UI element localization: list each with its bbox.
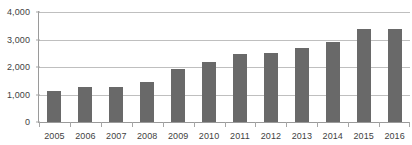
x-tick-cell bbox=[255, 122, 286, 127]
x-tick-cell bbox=[317, 122, 348, 127]
y-axis-tick-mark bbox=[36, 12, 40, 13]
x-axis-tick-mark bbox=[39, 122, 40, 127]
x-axis-ticks bbox=[39, 122, 410, 127]
bar-slot bbox=[317, 12, 348, 122]
bar-slot bbox=[286, 12, 317, 122]
bar-slot bbox=[348, 12, 379, 122]
x-tick-cell bbox=[70, 122, 101, 127]
x-axis-tick-mark bbox=[225, 122, 226, 127]
x-tick-cell bbox=[101, 122, 132, 127]
x-tick-cell bbox=[163, 122, 194, 127]
bar[interactable] bbox=[47, 91, 61, 122]
bar-slot bbox=[163, 12, 194, 122]
y-axis-tick-label: 4,000 bbox=[7, 7, 30, 17]
bar[interactable] bbox=[140, 82, 154, 122]
y-axis-tick-mark bbox=[36, 122, 40, 123]
y-axis-tick-label: 2,000 bbox=[7, 62, 30, 72]
x-tick-mark-end bbox=[409, 122, 410, 127]
bar[interactable] bbox=[202, 62, 216, 122]
x-axis-tick-label: 2008 bbox=[132, 129, 163, 145]
x-axis-tick-label: 2012 bbox=[255, 129, 286, 145]
x-axis-tick-label: 2007 bbox=[101, 129, 132, 145]
x-axis-tick-label: 2013 bbox=[286, 129, 317, 145]
bar[interactable] bbox=[295, 48, 309, 122]
y-axis-tick-label: 3,000 bbox=[7, 35, 30, 45]
y-axis: 01,0002,0003,0004,000 bbox=[0, 0, 36, 145]
x-tick-cell bbox=[39, 122, 70, 127]
x-axis-tick-label: 2016 bbox=[379, 129, 410, 145]
x-axis-tick-label: 2010 bbox=[194, 129, 225, 145]
x-tick-cell bbox=[379, 122, 410, 127]
bar[interactable] bbox=[388, 29, 402, 123]
x-axis-tick-label: 2011 bbox=[225, 129, 256, 145]
bar[interactable] bbox=[357, 29, 371, 122]
x-axis-tick-mark bbox=[286, 122, 287, 127]
bar-slot bbox=[70, 12, 101, 122]
x-axis-tick-mark bbox=[255, 122, 256, 127]
y-axis-tick-mark bbox=[36, 67, 40, 68]
bar-slot bbox=[225, 12, 256, 122]
x-axis-tick-label: 2009 bbox=[163, 129, 194, 145]
x-axis-tick-label: 2015 bbox=[348, 129, 379, 145]
x-axis-tick-label: 2005 bbox=[39, 129, 70, 145]
x-tick-cell bbox=[194, 122, 225, 127]
x-axis-tick-mark bbox=[70, 122, 71, 127]
bar-slot bbox=[39, 12, 70, 122]
x-tick-cell bbox=[132, 122, 163, 127]
x-tick-cell bbox=[225, 122, 256, 127]
bar[interactable] bbox=[264, 53, 278, 122]
x-axis-tick-mark bbox=[132, 122, 133, 127]
bar[interactable] bbox=[233, 54, 247, 122]
bar[interactable] bbox=[171, 69, 185, 122]
y-axis-tick-mark bbox=[36, 39, 40, 40]
x-axis-tick-label: 2006 bbox=[70, 129, 101, 145]
bar-slot bbox=[255, 12, 286, 122]
y-axis-tick-label: 1,000 bbox=[7, 90, 30, 100]
x-axis-labels: 2005200620072008200920102011201220132014… bbox=[39, 129, 410, 145]
x-axis-tick-mark bbox=[101, 122, 102, 127]
x-tick-cell bbox=[348, 122, 379, 127]
bar-chart: 01,0002,0003,0004,000 200520062007200820… bbox=[0, 0, 412, 145]
x-tick-cell bbox=[286, 122, 317, 127]
bar-slot bbox=[379, 12, 410, 122]
plot-area bbox=[39, 12, 410, 122]
x-axis-tick-mark bbox=[348, 122, 349, 127]
bar[interactable] bbox=[326, 42, 340, 122]
y-axis-tick-label: 0 bbox=[25, 117, 30, 127]
x-axis-tick-mark bbox=[379, 122, 380, 127]
bar-slot bbox=[101, 12, 132, 122]
bar-series bbox=[39, 12, 410, 122]
y-axis-tick-mark bbox=[36, 94, 40, 95]
bar[interactable] bbox=[78, 87, 92, 122]
bar[interactable] bbox=[109, 87, 123, 122]
x-axis-tick-mark bbox=[194, 122, 195, 127]
x-axis-tick-label: 2014 bbox=[317, 129, 348, 145]
bar-slot bbox=[132, 12, 163, 122]
x-axis-tick-mark bbox=[317, 122, 318, 127]
bar-slot bbox=[194, 12, 225, 122]
x-axis-tick-mark bbox=[163, 122, 164, 127]
